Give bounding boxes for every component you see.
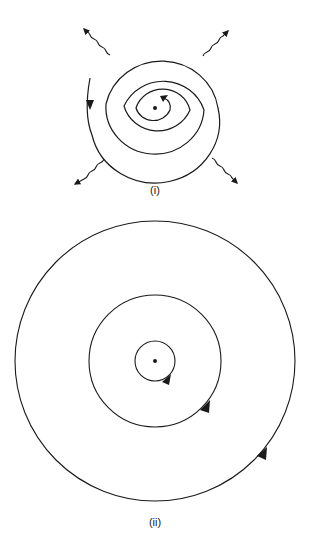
orbit-middle-arrow-icon xyxy=(200,400,210,413)
radiation-arrow-icon-sw xyxy=(75,159,104,184)
radiation-arrow-icon-ne xyxy=(203,31,228,56)
nucleus-dot xyxy=(153,106,157,110)
diagram-canvas: (i) (ii) xyxy=(0,0,310,552)
inward-spiral xyxy=(87,61,219,183)
radiation-arrow-icon-nw xyxy=(84,29,110,55)
panel-label-ii: (ii) xyxy=(149,516,161,528)
radiation-arrow-icon-se xyxy=(212,158,237,183)
panel-label-i: (i) xyxy=(150,184,160,196)
spiral-end-arrow-icon xyxy=(160,95,168,102)
nucleus-dot xyxy=(153,359,157,363)
panel-i: (i) xyxy=(75,29,237,196)
panel-ii: (ii) xyxy=(15,221,295,528)
orbit-outer-arrow-icon xyxy=(257,447,267,460)
